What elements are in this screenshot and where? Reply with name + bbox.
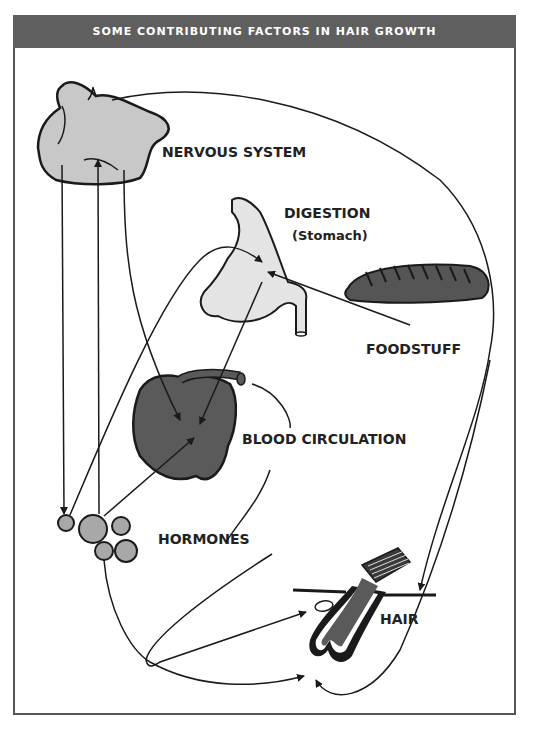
nerve-to-hormones-arrow	[62, 165, 64, 514]
blood-circulation-label: BLOOD CIRCULATION	[242, 431, 406, 447]
nervous-system-icon	[38, 82, 169, 184]
hormones-to-nerve-arrow	[98, 160, 99, 514]
hormones-label: HORMONES	[158, 531, 250, 547]
circulation-bracket	[252, 384, 290, 428]
hormones-icon	[58, 515, 137, 562]
foodstuff-label: FOODSTUFF	[366, 341, 461, 357]
digestion-label: DIGESTION	[284, 205, 370, 221]
circulation-to-hair-upper-arrow	[146, 554, 306, 666]
heart-icon	[133, 373, 245, 479]
bread-icon	[345, 265, 489, 303]
hair-follicle-icon	[293, 548, 436, 662]
diagram-canvas: NERVOUS SYSTEM DIGESTION (Stomach) FOODS…	[0, 0, 540, 736]
nervous-system-label: NERVOUS SYSTEM	[162, 144, 306, 160]
hair-label: HAIR	[380, 611, 419, 627]
stomach-label: (Stomach)	[292, 228, 368, 243]
